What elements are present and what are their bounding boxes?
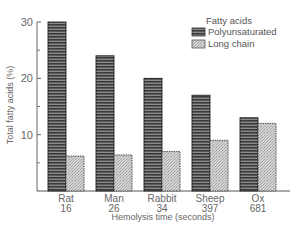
bar-rabbit-polyunsaturated bbox=[144, 78, 162, 191]
legend-label-long-chain: Long chain bbox=[208, 38, 254, 49]
bar-man-polyunsaturated bbox=[96, 56, 114, 191]
legend-swatch-polyunsaturated bbox=[192, 28, 205, 36]
bar-sheep-polyunsaturated bbox=[192, 95, 210, 191]
legend-swatch-long-chain bbox=[192, 40, 205, 48]
legend-title: Fatty acids bbox=[206, 15, 252, 26]
y-tick-label: 20 bbox=[21, 72, 33, 84]
legend: Fatty acids Polyunsaturated Long chain bbox=[192, 15, 277, 49]
bar-ox-polyunsaturated bbox=[240, 118, 258, 191]
category-sublabel: 16 bbox=[60, 203, 72, 214]
category-sublabel: 681 bbox=[250, 203, 267, 214]
bar-ox-long-chain bbox=[258, 123, 276, 191]
bar-chart: 102030 Rat16Man26Rabbit34Sheep397Ox681 H… bbox=[0, 0, 301, 227]
x-axis-label: Hemolysis time (seconds) bbox=[111, 212, 214, 222]
y-axis-label: Total fatty acids (%) bbox=[5, 66, 15, 145]
category-labels: Rat16Man26Rabbit34Sheep397Ox681 bbox=[58, 193, 267, 214]
y-ticks: 102030 bbox=[21, 16, 41, 163]
bar-sheep-long-chain bbox=[210, 140, 228, 191]
bar-rabbit-long-chain bbox=[162, 152, 180, 191]
y-tick-label: 30 bbox=[21, 16, 33, 28]
bar-rat-long-chain bbox=[66, 156, 84, 191]
y-tick-label: 10 bbox=[21, 129, 33, 141]
bar-rat-polyunsaturated bbox=[48, 22, 66, 191]
bar-man-long-chain bbox=[114, 155, 132, 191]
legend-label-polyunsaturated: Polyunsaturated bbox=[208, 26, 277, 37]
